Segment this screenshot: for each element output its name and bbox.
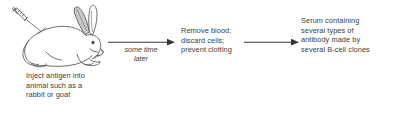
- step-2-caption: Remove blood; discard cells; prevent clo…: [181, 26, 253, 55]
- rabbit-ears: [74, 5, 97, 34]
- step-3-caption: Serum containing several types of antibo…: [301, 16, 397, 54]
- syringe-icon: [12, 7, 45, 33]
- rabbit-body: [23, 26, 100, 67]
- rabbit-head: [86, 35, 103, 59]
- antiserum-production-diagram: Inject antigen into animal such as a rab…: [0, 0, 398, 114]
- step-1-caption: Inject antigen into animal such as a rab…: [26, 71, 136, 100]
- arrow-1-label: some time later: [104, 45, 178, 64]
